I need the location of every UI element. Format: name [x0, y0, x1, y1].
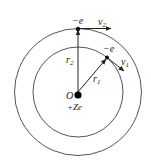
- nucleus-charge-label: +Ze: [67, 102, 82, 112]
- r2-label: r2: [66, 54, 74, 67]
- v1-label: v1: [121, 56, 129, 69]
- outer-electron: [76, 27, 80, 31]
- inner-electron: [105, 56, 109, 60]
- v2-label: v2: [98, 16, 106, 29]
- bohr-orbit-diagram: −e v2 −e v1 r2 r1 O +Ze: [0, 0, 151, 168]
- radius-r1-arrow: [78, 59, 106, 92]
- r1-label: r1: [93, 73, 100, 86]
- inner-electron-label: −e: [103, 43, 115, 54]
- outer-electron-label: −e: [72, 15, 84, 26]
- nucleus: [74, 91, 81, 98]
- origin-label: O: [66, 90, 73, 101]
